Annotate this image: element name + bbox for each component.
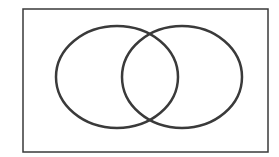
right-set-ellipse: [122, 26, 242, 128]
venn-diagram: [0, 0, 279, 157]
venn-diagram-svg: [0, 0, 279, 157]
left-set-ellipse: [56, 26, 178, 128]
